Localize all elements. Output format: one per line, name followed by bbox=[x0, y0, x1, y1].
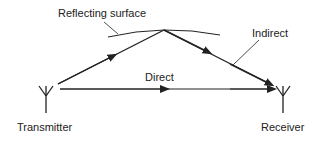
indirect-arrow-mid bbox=[164, 30, 208, 52]
indirect-arrow-end bbox=[230, 64, 270, 84]
receiver-antenna-icon bbox=[276, 86, 290, 113]
surface-label: Reflecting surface bbox=[58, 7, 146, 19]
reflecting-surface-arc bbox=[108, 30, 220, 37]
transmitter-label: Transmitter bbox=[17, 121, 73, 133]
indirect-arrow-up bbox=[58, 56, 113, 84]
receiver-label: Receiver bbox=[261, 121, 305, 133]
propagation-diagram: Reflecting surface Indirect Direct Trans… bbox=[0, 0, 321, 142]
direct-label: Direct bbox=[145, 71, 174, 83]
transmitter-antenna-icon bbox=[39, 86, 53, 113]
indirect-label: Indirect bbox=[252, 27, 288, 39]
surface-leader-line bbox=[104, 22, 118, 34]
indirect-leader-line bbox=[233, 40, 259, 65]
